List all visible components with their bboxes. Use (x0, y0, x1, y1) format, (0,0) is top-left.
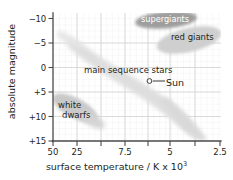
y-tick-label-2: 0 (22, 63, 46, 73)
x-tick-label-2: 7.5 (113, 147, 137, 157)
x-tick-label-0: 50 (43, 147, 63, 157)
y-axis-title: absolute magnitude (6, 12, 17, 132)
x-tick-label-3: 5 (160, 147, 180, 157)
y-tick-label-0: −10 (22, 14, 46, 24)
region-label-white-dwarfs-line2: dwarfs (62, 111, 90, 121)
x-axis-title: surface temperature / K x 103 (0, 160, 233, 172)
x-tick-label-1: 25 (67, 147, 87, 157)
region-label-red-giants: red giants (171, 33, 214, 43)
y-axis-ticks (49, 19, 54, 142)
region-label-supergiants: supergiants (141, 15, 189, 25)
region-label-main-sequence: main sequence stars (84, 66, 173, 76)
y-tick-label-4: +10 (22, 112, 46, 122)
y-tick-label-5: +15 (22, 136, 46, 146)
y-tick-label-3: +5 (22, 87, 46, 97)
y-tick-label-1: −5 (22, 38, 46, 48)
x-axis-title-text: surface temperature / K x 10 (46, 161, 183, 172)
region-label-white-dwarfs: white dwarfs (58, 101, 90, 120)
x-axis-title-exponent: 3 (183, 160, 187, 168)
sun-marker-icon (147, 79, 152, 84)
annotation-label-sun: Sun (166, 78, 184, 88)
hr-diagram-chart: −10 −5 0 +5 +10 +15 50 25 7.5 5 2.5 surf… (0, 0, 233, 180)
x-axis-ticks (53, 141, 220, 146)
x-tick-label-4: 2.5 (208, 147, 232, 157)
